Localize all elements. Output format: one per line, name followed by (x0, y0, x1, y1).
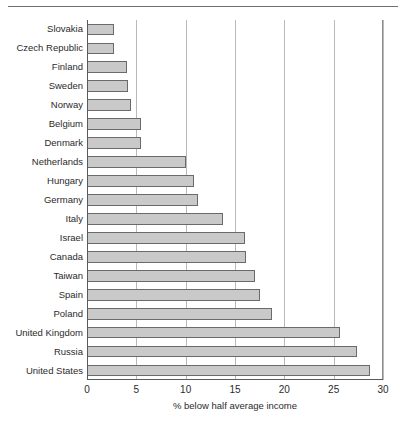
y-tick-label-russia: Russia (0, 347, 83, 357)
bar-row (87, 118, 383, 130)
y-tick-label-united-kingdom: United Kingdom (0, 328, 83, 338)
y-axis-line (87, 20, 88, 380)
plot-right-border (382, 20, 383, 380)
x-tick-label-15: 15 (229, 384, 240, 396)
y-axis-tick-labels: SlovakiaCzech RepublicFinlandSwedenNorwa… (0, 20, 83, 380)
bar-belgium (87, 118, 141, 130)
bar-united-kingdom (87, 327, 340, 339)
bar-row (87, 156, 383, 168)
bar-row (87, 137, 383, 149)
x-tick-label-20: 20 (279, 384, 290, 396)
bar-row (87, 80, 383, 92)
bar-netherlands (87, 156, 186, 168)
bar-row (87, 61, 383, 73)
bar-row (87, 43, 383, 55)
x-tick-label-25: 25 (328, 384, 339, 396)
bar-row (87, 270, 383, 282)
bar-row (87, 251, 383, 263)
bar-row (87, 365, 383, 377)
y-tick-label-netherlands: Netherlands (0, 157, 83, 167)
bar-row (87, 308, 383, 320)
bar-spain (87, 289, 260, 301)
y-tick-label-taiwan: Taiwan (0, 271, 83, 281)
x-axis-line (87, 379, 383, 380)
bar-denmark (87, 137, 141, 149)
y-tick-label-sweden: Sweden (0, 81, 83, 91)
x-tick-label-5: 5 (134, 384, 140, 396)
bar-slovakia (87, 24, 114, 36)
y-tick-label-spain: Spain (0, 290, 83, 300)
x-tick-label-30: 30 (377, 384, 388, 396)
plot-area (87, 20, 383, 380)
bar-israel (87, 232, 245, 244)
bar-row (87, 24, 383, 36)
y-tick-label-italy: Italy (0, 214, 83, 224)
bar-poland (87, 308, 272, 320)
y-tick-label-hungary: Hungary (0, 176, 83, 186)
y-tick-label-norway: Norway (0, 100, 83, 110)
bar-row (87, 289, 383, 301)
bar-row (87, 194, 383, 206)
y-tick-label-poland: Poland (0, 309, 83, 319)
bar-russia (87, 346, 357, 358)
x-tick-label-10: 10 (180, 384, 191, 396)
x-axis-title: % below half average income (87, 400, 383, 411)
bar-norway (87, 99, 131, 111)
bar-finland (87, 61, 127, 73)
x-axis-tick-labels: 051015202530 (87, 384, 383, 398)
bar-row (87, 232, 383, 244)
bar-taiwan (87, 270, 255, 282)
bar-canada (87, 251, 246, 263)
bar-italy (87, 213, 223, 225)
bar-sweden (87, 80, 128, 92)
bar-row (87, 175, 383, 187)
bar-row (87, 213, 383, 225)
bar-series (87, 20, 383, 380)
bar-row (87, 99, 383, 111)
x-tick-label-0: 0 (84, 384, 90, 396)
y-tick-label-denmark: Denmark (0, 138, 83, 148)
y-tick-label-germany: Germany (0, 195, 83, 205)
y-tick-label-slovakia: Slovakia (0, 24, 83, 34)
bar-row (87, 346, 383, 358)
gridline-30 (383, 20, 384, 380)
y-tick-label-czech-republic: Czech Republic (0, 43, 83, 53)
top-horizontal-rule (8, 6, 398, 7)
chart-figure: SlovakiaCzech RepublicFinlandSwedenNorwa… (0, 0, 406, 429)
y-tick-label-finland: Finland (0, 62, 83, 72)
bar-hungary (87, 175, 194, 187)
y-tick-label-israel: Israel (0, 233, 83, 243)
bar-czech-republic (87, 43, 114, 55)
y-tick-label-belgium: Belgium (0, 119, 83, 129)
bar-row (87, 327, 383, 339)
bar-germany (87, 194, 198, 206)
bar-united-states (87, 365, 370, 377)
y-tick-label-united-states: United States (0, 366, 83, 376)
y-tick-label-canada: Canada (0, 252, 83, 262)
